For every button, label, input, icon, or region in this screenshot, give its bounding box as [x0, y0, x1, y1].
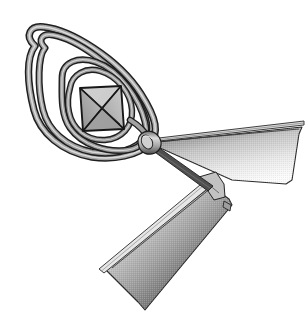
- octahedron-core: [80, 86, 124, 131]
- illustration-canvas: Abstract mechanical drawing: a spiral of…: [0, 0, 308, 334]
- illustration-svg: [0, 0, 308, 334]
- hub: [138, 131, 161, 154]
